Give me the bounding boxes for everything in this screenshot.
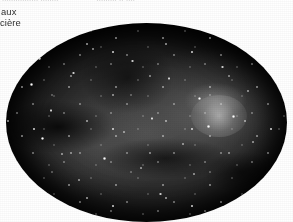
star-point xyxy=(50,109,52,111)
scanned-page: ................ ................. .. ..… xyxy=(0,0,293,222)
star-point xyxy=(252,141,254,143)
star-point xyxy=(30,83,33,86)
star-point xyxy=(92,48,95,51)
star-layer-fine xyxy=(6,23,287,222)
star-point xyxy=(168,77,171,80)
star-point xyxy=(193,173,195,175)
star-point xyxy=(232,115,235,118)
star-point xyxy=(140,167,142,169)
star-layer-medium xyxy=(6,23,287,222)
star-point xyxy=(221,66,223,68)
clipped-top-line: ................ ................. .. ..… xyxy=(2,0,291,3)
clipped-top-line-right: ......... .. .... xyxy=(97,0,135,3)
star-point xyxy=(182,143,184,145)
star-point xyxy=(131,60,133,62)
star-point xyxy=(198,97,201,100)
star-point xyxy=(207,125,210,128)
star-point xyxy=(78,179,80,181)
star-point xyxy=(38,57,41,60)
star-field-image xyxy=(6,23,287,222)
star-layer-bright xyxy=(6,23,287,222)
star-point xyxy=(41,137,44,140)
figure-star-field xyxy=(6,23,287,222)
star-point xyxy=(159,193,161,195)
star-cluster-knot xyxy=(191,95,247,137)
margin-text-fragment-ciere: cière xyxy=(0,17,21,28)
star-point xyxy=(72,72,74,74)
star-point xyxy=(151,117,153,119)
star-point xyxy=(123,131,125,133)
text-layer: ................ ................. .. ..… xyxy=(0,0,293,40)
margin-text-fragment-aux: aux xyxy=(1,6,16,17)
star-point xyxy=(61,153,63,155)
clipped-top-line-left: ................ ........ xyxy=(2,0,59,3)
star-point xyxy=(112,94,114,96)
star-point xyxy=(247,90,249,92)
star-point xyxy=(103,157,106,160)
